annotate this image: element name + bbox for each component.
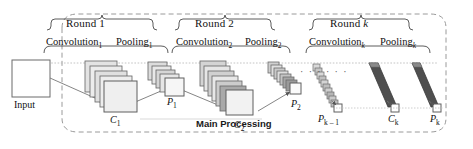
node-label-c1: C1 <box>110 114 120 128</box>
stage-pooling-2: Pooling2 <box>245 36 281 50</box>
poolk-feature-maps <box>412 63 441 112</box>
round-2-label: Round 2 <box>195 17 234 29</box>
round-k-label: Round k <box>330 17 368 29</box>
ellipsis-between-rounds: · · · · · · <box>300 66 348 77</box>
stage-pooling-1: Pooling1 <box>116 36 152 50</box>
stage-convolution-1: Convolution1 <box>46 36 102 50</box>
stage-convolution-2: Convolution2 <box>176 36 232 50</box>
conv2-feature-maps <box>200 61 253 115</box>
convk-feature-maps <box>369 63 399 112</box>
input-square <box>12 60 50 97</box>
conv1-feature-maps <box>85 61 137 112</box>
node-label-pk: Pk <box>430 113 440 127</box>
cnn-architecture-diagram: Round 1 Round 2 Round k Convolution1 Poo… <box>0 0 473 149</box>
stage-convolution-k: Convolutionk <box>309 36 365 50</box>
stage-pooling-k: Poolingk <box>380 36 416 50</box>
pool1-feature-maps <box>148 62 184 96</box>
node-label-p2: P2 <box>291 98 301 112</box>
node-label-ck: Ck <box>388 113 398 127</box>
node-label-pk-minus-1: Pk – 1 <box>318 113 339 127</box>
input-label: Input <box>14 99 35 110</box>
main-processing-label: Main Processing <box>196 118 272 129</box>
node-label-p1: P1 <box>167 96 177 110</box>
round-1-label: Round 1 <box>66 17 105 29</box>
pool2-feature-maps <box>268 62 301 94</box>
